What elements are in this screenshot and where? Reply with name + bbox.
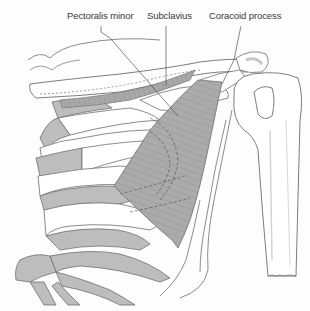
- acromion: [236, 52, 268, 73]
- label-coracoid-process: Coracoid process: [209, 10, 281, 21]
- anatomy-diagram: Pectoralis minor Subclavius Coracoid pro…: [0, 0, 310, 311]
- label-subclavius: Subclavius: [147, 10, 192, 21]
- humerus: [234, 73, 302, 276]
- shoulder-illustration: [0, 0, 310, 311]
- label-pectoralis-minor: Pectoralis minor: [67, 10, 134, 21]
